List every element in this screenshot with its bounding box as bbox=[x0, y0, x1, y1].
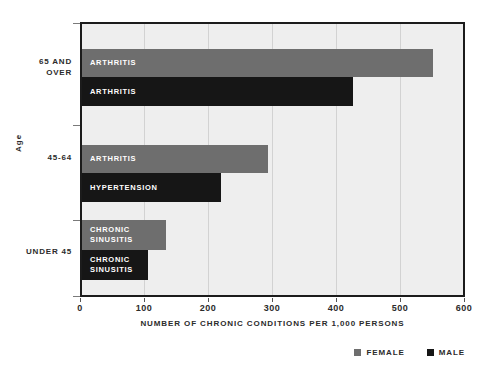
bar-female-under-45[interactable]: Chronic sinusitis bbox=[82, 220, 166, 250]
x-tick-label-300: 300 bbox=[264, 303, 281, 313]
y-category-label-45-64: 45-64 bbox=[10, 152, 72, 163]
legend-swatch-female-icon bbox=[354, 349, 361, 356]
y-category-label-under-45: Under 45 bbox=[8, 246, 72, 257]
x-tick-mark bbox=[144, 298, 145, 302]
bar-label: Arthritis bbox=[82, 58, 136, 68]
x-tick-label-200: 200 bbox=[200, 303, 217, 313]
y-category-label-line1: 45-64 bbox=[10, 152, 72, 163]
y-tick-mark bbox=[73, 296, 80, 297]
plot-inner: Arthritis Arthritis Arthritis Hypertensi… bbox=[82, 24, 463, 295]
x-tick-mark bbox=[336, 298, 337, 302]
bar-male-65-and-over[interactable]: Arthritis bbox=[82, 77, 353, 106]
x-tick-label-0: 0 bbox=[77, 303, 83, 313]
y-category-label-65-and-over: 65 and over bbox=[10, 56, 72, 78]
x-tick-label-400: 400 bbox=[328, 303, 345, 313]
y-tick-mark bbox=[73, 220, 80, 221]
y-tick-mark bbox=[73, 125, 80, 126]
y-category-label-line1: Under 45 bbox=[8, 246, 72, 257]
bar-label: Arthritis bbox=[82, 154, 136, 164]
x-tick-label-500: 500 bbox=[392, 303, 409, 313]
bar-male-under-45[interactable]: Chronic sinusitis bbox=[82, 250, 148, 280]
legend-item-male[interactable]: Male bbox=[427, 348, 465, 357]
x-tick-mark bbox=[208, 298, 209, 302]
bar-label: Hypertension bbox=[82, 183, 158, 193]
bar-label: Chronic sinusitis bbox=[82, 255, 133, 275]
x-tick-label-600: 600 bbox=[456, 303, 473, 313]
legend-label-male: Male bbox=[439, 348, 465, 357]
x-tick-mark bbox=[400, 298, 401, 302]
bar-female-65-and-over[interactable]: Arthritis bbox=[82, 49, 433, 77]
legend-item-female[interactable]: Female bbox=[354, 348, 404, 357]
y-category-label-line1: 65 and bbox=[10, 56, 72, 67]
x-tick-label-100: 100 bbox=[136, 303, 153, 313]
bar-label: Chronic sinusitis bbox=[82, 225, 133, 245]
y-axis-title: Age bbox=[14, 134, 23, 152]
y-tick-mark bbox=[73, 23, 80, 24]
x-axis-title: Number of Chronic Conditions Per 1,000 P… bbox=[80, 319, 465, 328]
x-tick-mark bbox=[464, 298, 465, 302]
legend-swatch-male-icon bbox=[427, 349, 434, 356]
x-tick-mark bbox=[80, 298, 81, 302]
legend-label-female: Female bbox=[366, 348, 404, 357]
legend: Female Male bbox=[354, 348, 465, 357]
bar-label: Arthritis bbox=[82, 87, 136, 97]
bar-female-45-64[interactable]: Arthritis bbox=[82, 145, 268, 173]
plot-area: Arthritis Arthritis Arthritis Hypertensi… bbox=[80, 22, 465, 297]
bar-male-45-64[interactable]: Hypertension bbox=[82, 173, 221, 202]
x-tick-mark bbox=[272, 298, 273, 302]
chart-container: Age 65 and over 45-64 Under 45 Arthritis bbox=[0, 0, 479, 366]
y-category-label-line2: over bbox=[10, 67, 72, 78]
